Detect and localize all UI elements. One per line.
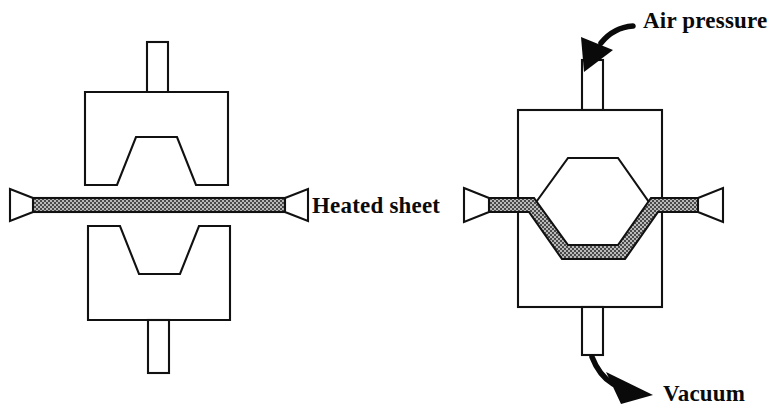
vacuum-label: Vacuum [663, 381, 745, 406]
vacuum-tube [582, 307, 603, 355]
process-diagram: Heated sheet Air pressure Vacuum [0, 0, 776, 416]
heated-sheet-label: Heated sheet [312, 193, 440, 218]
heated-sheet-strip [31, 198, 287, 212]
lower-mold-tube [148, 320, 169, 373]
upper-mold-tube [147, 42, 168, 94]
air-pressure-label: Air pressure [643, 8, 767, 33]
